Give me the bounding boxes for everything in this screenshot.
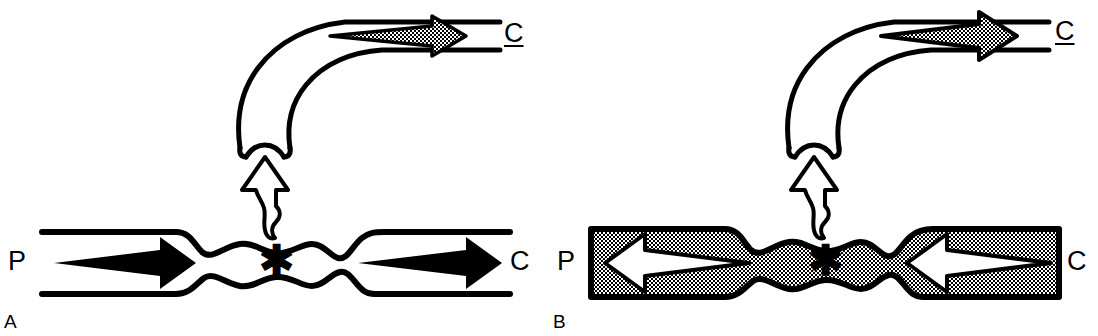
label-distal-a: C — [510, 248, 530, 275]
label-proximal-a: P — [8, 248, 26, 275]
panel-letter-a: A — [4, 312, 17, 331]
label-proximal-b: P — [557, 248, 575, 275]
stenosis-marker-a: ✱ — [259, 237, 294, 284]
label-branch-b: C — [1055, 18, 1075, 45]
panel-b-drawing: ✱ — [549, 0, 1098, 336]
leak-arrow-a — [242, 157, 288, 239]
label-branch-a: C — [504, 20, 524, 47]
svg-text:✱: ✱ — [808, 237, 843, 284]
panel-a: ✱ P C C A — [0, 0, 549, 336]
leak-arrow-b — [791, 157, 837, 239]
panel-a-drawing: ✱ — [0, 0, 549, 336]
label-distal-b: C — [1067, 248, 1087, 275]
distal-flow-arrow-a — [358, 237, 502, 289]
stenosis-marker-b: ✱ — [808, 237, 843, 284]
figure-root: ✱ P C C A — [0, 0, 1098, 336]
panel-b: ✱ P C C B — [549, 0, 1098, 336]
svg-text:✱: ✱ — [259, 237, 294, 284]
proximal-flow-arrow-a — [54, 237, 196, 289]
panel-letter-b: B — [553, 312, 566, 331]
